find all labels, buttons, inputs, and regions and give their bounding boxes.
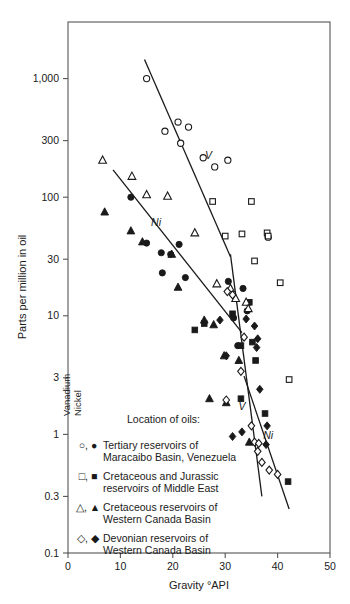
legend-header-nickel: Nickel [72, 390, 83, 416]
y-tick-label: 300 [41, 134, 59, 146]
data-point-open-square [239, 231, 245, 237]
data-point-open-circle [178, 140, 184, 146]
curve-label-ni-3: Ni [263, 429, 274, 441]
y-tick-label: 3 [53, 371, 59, 383]
legend-marker-pair: △, ▲ [76, 501, 100, 513]
curve-label-v-2: V [238, 400, 246, 412]
legend-entry-line1: Cretaceous reservoirs of [103, 501, 217, 513]
data-point-filled-circle [240, 285, 246, 291]
legend-entry-line2: reservoirs of Middle East [103, 482, 219, 494]
data-point-filled-square [253, 358, 259, 364]
x-tick-label: 20 [167, 560, 179, 572]
x-tick-label: 40 [272, 560, 284, 572]
data-point-filled-circle [182, 274, 188, 280]
data-point-open-square [252, 258, 258, 264]
x-axis-title: Gravity °API [169, 579, 229, 591]
y-axis-title: Parts per million in oil [16, 235, 28, 340]
data-point-open-circle [185, 124, 191, 130]
chart-figure: 0.10.31310301003001,000 01020304050 Part… [0, 0, 350, 604]
legend-entry-line1: Cretaceous and Jurassic [103, 470, 219, 482]
data-point-open-square [277, 280, 283, 286]
legend-marker-pair: □, ■ [79, 470, 98, 482]
y-tick-label: 0.1 [44, 547, 59, 559]
data-point-open-circle [162, 128, 168, 134]
data-point-filled-square [250, 339, 256, 345]
y-tick-label: 10 [47, 309, 59, 321]
legend-header-vanadium: Vanadium [61, 374, 72, 416]
data-point-open-square [249, 199, 255, 205]
data-point-open-circle [144, 75, 150, 81]
data-point-open-square [210, 199, 216, 205]
data-point-filled-square [238, 343, 244, 349]
data-point-open-square [265, 233, 271, 239]
y-tick-label: 1 [53, 428, 59, 440]
data-point-filled-circle [158, 250, 164, 256]
data-point-filled-square [230, 311, 236, 317]
legend-entry-line2: Western Canada Basin [103, 544, 211, 556]
legend-marker-pair: ◇, ◆ [77, 532, 100, 544]
y-tick-label: 100 [41, 191, 59, 203]
data-point-filled-square [285, 479, 291, 485]
legend-entry-line2: Maracaibo Basin, Venezuela [103, 451, 236, 463]
data-point-open-circle [212, 164, 218, 170]
trace-metals-scatter-chart: 0.10.31310301003001,000 01020304050 Part… [0, 0, 350, 604]
data-point-filled-circle [128, 194, 134, 200]
x-tick-label: 0 [65, 560, 71, 572]
data-point-filled-circle [159, 270, 165, 276]
y-tick-label: 0.3 [44, 490, 59, 502]
data-point-open-circle [175, 119, 181, 125]
curve-label-ni-1: Ni [151, 216, 162, 228]
legend-marker-pair: ○, ● [79, 439, 98, 451]
x-tick-label: 50 [324, 560, 336, 572]
data-point-open-circle [225, 157, 231, 163]
data-point-filled-square [192, 327, 198, 333]
x-tick-label: 30 [219, 560, 231, 572]
y-tick-label: 1,000 [33, 72, 59, 84]
data-point-filled-square [262, 411, 268, 417]
legend-title: Location of oils: [127, 413, 200, 425]
data-point-open-square [222, 233, 228, 239]
legend-entry-line1: Tertiary reservoirs of [103, 439, 198, 451]
curve-label-v-0: V [205, 149, 213, 161]
data-point-filled-circle [176, 241, 182, 247]
y-tick-label: 30 [47, 253, 59, 265]
data-point-open-square [286, 377, 292, 383]
legend-entry-line1: Devonian reservoirs of [103, 532, 208, 544]
legend-entry-line2: Western Canada Basin [103, 513, 211, 525]
x-tick-label: 10 [115, 560, 127, 572]
